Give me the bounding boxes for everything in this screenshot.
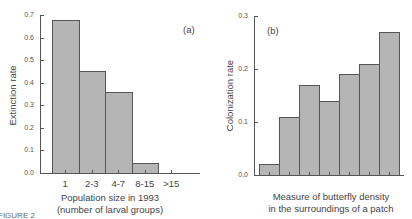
y-axis-a bbox=[40, 15, 41, 174]
x-tick bbox=[171, 170, 172, 173]
bar bbox=[359, 64, 380, 176]
y-tick-label: 0.1 bbox=[228, 118, 248, 125]
bar bbox=[319, 101, 340, 176]
x-axis-label-b-line2: in the surroundings of a patch bbox=[256, 203, 406, 214]
y-tick-label: 0.5 bbox=[14, 56, 34, 63]
bar bbox=[379, 32, 400, 176]
x-axis-label-b: Measure of butterfly density bbox=[256, 191, 406, 202]
x-tick bbox=[349, 172, 350, 175]
y-axis-label-b: Colonization rate bbox=[224, 51, 235, 141]
y-tick-label: 0.4 bbox=[14, 79, 34, 86]
bar bbox=[79, 71, 107, 174]
x-category-label: 2-3 bbox=[77, 178, 107, 189]
bar bbox=[299, 85, 320, 176]
y-tick-label: 0.1 bbox=[14, 146, 34, 153]
panel-a: Extinction rate 0.00.10.20.30.40.50.60.7… bbox=[0, 0, 206, 219]
x-category-label: >15 bbox=[156, 178, 186, 189]
y-tick-label: 0.6 bbox=[14, 34, 34, 41]
figure-caption-fragment: FIGURE 2 bbox=[0, 211, 35, 219]
x-tick bbox=[92, 170, 93, 173]
panel-tag-b: (b) bbox=[267, 25, 279, 36]
x-axis-label-a: Population size in 1993 bbox=[45, 192, 175, 203]
bar bbox=[279, 117, 300, 176]
x-category-label: 4-7 bbox=[103, 178, 133, 189]
y-tick-label: 0.0 bbox=[14, 169, 34, 176]
x-tick bbox=[118, 170, 119, 173]
x-tick bbox=[369, 172, 370, 175]
x-axis-label-a-line2: (number of larval groups) bbox=[45, 204, 175, 215]
bar bbox=[52, 20, 80, 174]
bar bbox=[339, 74, 360, 176]
x-tick bbox=[65, 170, 66, 173]
x-tick bbox=[145, 170, 146, 173]
x-tick bbox=[389, 172, 390, 175]
x-tick bbox=[309, 172, 310, 175]
y-tick-label: 0.0 bbox=[228, 171, 248, 178]
y-tick-label: 0.3 bbox=[14, 101, 34, 108]
x-tick bbox=[269, 172, 270, 175]
y-tick-label: 0.2 bbox=[14, 124, 34, 131]
y-tick-label: 0.3 bbox=[228, 12, 248, 19]
x-category-label: 1 bbox=[50, 178, 80, 189]
y-tick-label: 0.7 bbox=[14, 11, 34, 18]
panel-tag-a: (a) bbox=[183, 24, 195, 35]
y-axis-b bbox=[254, 16, 255, 176]
panel-b: Colonization rate 0.00.10.20.3 (b) Measu… bbox=[206, 0, 412, 219]
bar bbox=[105, 92, 133, 174]
x-tick bbox=[329, 172, 330, 175]
x-category-label: 8-15 bbox=[130, 178, 160, 189]
x-tick bbox=[289, 172, 290, 175]
y-tick-label: 0.2 bbox=[228, 65, 248, 72]
